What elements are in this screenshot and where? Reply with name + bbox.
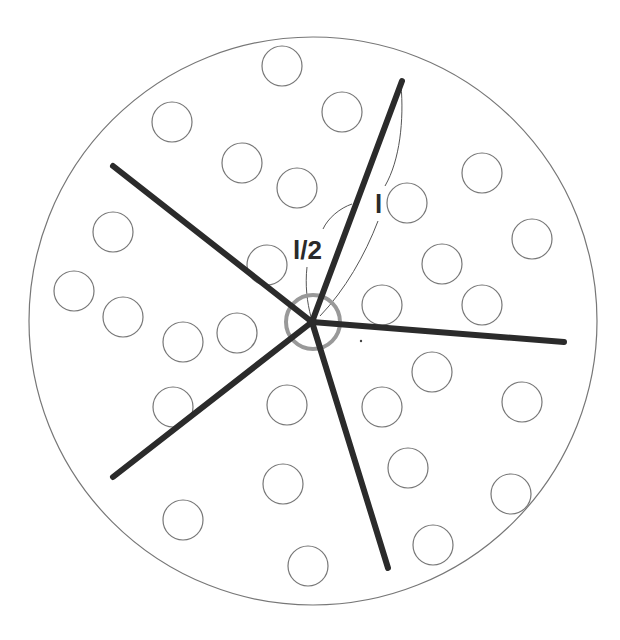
arm-lower-left [113, 322, 312, 477]
particle-circle [362, 285, 402, 325]
arm-bottom [312, 322, 388, 568]
particle-circle [217, 313, 257, 353]
arm-diagram: l l/2 [0, 0, 620, 640]
particle-circle [491, 474, 531, 514]
particle-circle [412, 352, 452, 392]
half-length-label: l/2 [293, 235, 322, 265]
particle-circle [163, 322, 203, 362]
particle-circle [163, 500, 203, 540]
particle-circle [322, 92, 362, 132]
particle-circle [93, 212, 133, 252]
particle-circle [152, 102, 192, 142]
particle-circle [462, 153, 502, 193]
particle-circle [387, 183, 427, 223]
particle-circle [462, 285, 502, 325]
particle-circle [267, 385, 307, 425]
half-length-bracket-lower [306, 267, 311, 317]
particle-circle [362, 387, 402, 427]
particle-circle [262, 46, 302, 86]
particle-circle [222, 143, 262, 183]
particle-circle [54, 271, 94, 311]
particle-circle [263, 464, 303, 504]
particle-circle [413, 525, 453, 565]
particle-circle [512, 219, 552, 259]
full-length-label: l [375, 189, 382, 219]
particle-circle [277, 168, 317, 208]
stray-dot [360, 340, 362, 342]
particle-circle [388, 448, 428, 488]
particle-circle [288, 546, 328, 586]
hub-dot [307, 317, 317, 327]
particle-circle [103, 297, 143, 337]
arm-upper-left [113, 166, 312, 322]
particle-circle [422, 244, 462, 284]
particle-circle [502, 382, 542, 422]
arms-group [113, 81, 564, 568]
arm-right [312, 322, 564, 342]
